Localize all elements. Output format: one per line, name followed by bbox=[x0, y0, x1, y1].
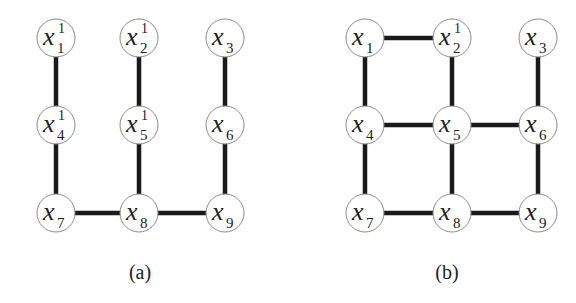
node-subscript: 9 bbox=[539, 215, 547, 231]
node-label: x bbox=[125, 109, 138, 138]
node-subscript: 1 bbox=[366, 40, 374, 56]
node-label: x bbox=[438, 197, 451, 226]
node-x8: x8 bbox=[120, 194, 158, 232]
node-x1: x11 bbox=[37, 19, 75, 57]
node-x4: x41 bbox=[37, 106, 75, 144]
node-subscript: 4 bbox=[57, 127, 65, 143]
node-subscript: 2 bbox=[140, 40, 148, 56]
node-label: x bbox=[438, 22, 451, 51]
node-x1: x1 bbox=[346, 19, 384, 57]
node-x5: x5 bbox=[433, 106, 471, 144]
node-subscript: 1 bbox=[57, 40, 65, 56]
node-label: x bbox=[438, 109, 451, 138]
node-x5: x51 bbox=[120, 106, 158, 144]
node-label: x bbox=[524, 22, 537, 51]
panel-a: x11x21x3x41x51x6x7x8x9(a) bbox=[37, 19, 244, 284]
node-superscript: 1 bbox=[58, 108, 65, 123]
panel-caption: (a) bbox=[129, 261, 151, 284]
node-label: x bbox=[42, 197, 55, 226]
node-label: x bbox=[42, 22, 55, 51]
node-subscript: 4 bbox=[366, 127, 374, 143]
node-label: x bbox=[211, 22, 224, 51]
node-superscript: 1 bbox=[454, 21, 461, 36]
node-subscript: 3 bbox=[226, 40, 234, 56]
node-label: x bbox=[351, 22, 364, 51]
node-x6: x6 bbox=[206, 106, 244, 144]
node-label: x bbox=[351, 109, 364, 138]
node-superscript: 1 bbox=[58, 21, 65, 36]
node-subscript: 8 bbox=[140, 215, 148, 231]
node-superscript: 1 bbox=[141, 21, 148, 36]
node-x8: x8 bbox=[433, 194, 471, 232]
panel-caption: (b) bbox=[435, 261, 458, 284]
node-x9: x9 bbox=[519, 194, 557, 232]
node-subscript: 5 bbox=[140, 127, 148, 143]
node-x4: x4 bbox=[346, 106, 384, 144]
node-subscript: 5 bbox=[453, 127, 461, 143]
node-label: x bbox=[351, 197, 364, 226]
node-subscript: 7 bbox=[57, 215, 65, 231]
node-label: x bbox=[211, 109, 224, 138]
node-label: x bbox=[125, 22, 138, 51]
node-subscript: 9 bbox=[226, 215, 234, 231]
node-superscript: 1 bbox=[141, 108, 148, 123]
node-label: x bbox=[524, 109, 537, 138]
node-x9: x9 bbox=[206, 194, 244, 232]
node-subscript: 2 bbox=[453, 40, 461, 56]
node-x7: x7 bbox=[37, 194, 75, 232]
node-label: x bbox=[211, 197, 224, 226]
node-x6: x6 bbox=[519, 106, 557, 144]
node-subscript: 7 bbox=[366, 215, 374, 231]
panel-b: x1x21x3x4x5x6x7x8x9(b) bbox=[346, 19, 557, 284]
graph-diagram: x11x21x3x41x51x6x7x8x9(a)x1x21x3x4x5x6x7… bbox=[0, 0, 576, 303]
node-x2: x21 bbox=[433, 19, 471, 57]
node-subscript: 3 bbox=[539, 40, 547, 56]
node-label: x bbox=[42, 109, 55, 138]
node-subscript: 6 bbox=[226, 127, 234, 143]
node-x3: x3 bbox=[519, 19, 557, 57]
node-label: x bbox=[125, 197, 138, 226]
node-subscript: 6 bbox=[539, 127, 547, 143]
node-subscript: 8 bbox=[453, 215, 461, 231]
node-x3: x3 bbox=[206, 19, 244, 57]
node-label: x bbox=[524, 197, 537, 226]
node-x7: x7 bbox=[346, 194, 384, 232]
node-x2: x21 bbox=[120, 19, 158, 57]
